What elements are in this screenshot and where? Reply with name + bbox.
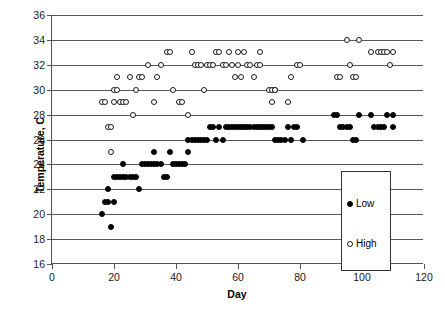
data-point-low	[384, 112, 390, 118]
data-point-high	[235, 49, 241, 55]
plot-area: 1618202224262830323436 020406080100120 L…	[51, 15, 423, 264]
data-point-low	[390, 112, 396, 118]
y-tick-label: 34	[33, 34, 45, 46]
y-tick	[47, 164, 52, 165]
data-point-high	[198, 62, 204, 68]
data-point-high	[232, 74, 238, 80]
data-point-high	[387, 62, 393, 68]
data-point-low	[269, 124, 275, 130]
legend-item-high: High	[347, 238, 377, 249]
data-point-high	[226, 49, 232, 55]
legend-marker-high-icon	[347, 241, 353, 247]
data-point-low	[334, 112, 340, 118]
data-point-high	[108, 124, 114, 130]
gridline	[52, 140, 423, 141]
data-point-high	[235, 62, 241, 68]
data-point-high	[269, 99, 275, 105]
data-point-low	[182, 161, 188, 167]
y-tick-label: 20	[33, 208, 45, 220]
legend-label-low: Low	[356, 198, 374, 209]
data-point-high	[344, 37, 350, 43]
x-tick-label: 60	[232, 271, 244, 283]
data-point-low	[216, 124, 222, 130]
data-point-high	[229, 62, 235, 68]
x-axis-title: Day	[51, 288, 423, 300]
y-tick-label: 18	[33, 233, 45, 245]
y-tick-label: 36	[33, 9, 45, 21]
data-point-high	[353, 74, 359, 80]
data-point-low	[285, 124, 291, 130]
x-tick-label: 80	[294, 271, 306, 283]
data-point-high	[285, 99, 291, 105]
data-point-high	[133, 87, 139, 93]
data-point-high	[201, 87, 207, 93]
data-point-high	[216, 49, 222, 55]
data-point-high	[179, 99, 185, 105]
data-point-low	[151, 149, 157, 155]
data-point-high	[347, 62, 353, 68]
data-point-high	[167, 49, 173, 55]
x-tick-label: 0	[49, 271, 55, 283]
data-point-high	[247, 62, 253, 68]
y-tick	[47, 115, 52, 116]
data-point-high	[390, 49, 396, 55]
x-tick	[176, 264, 177, 269]
data-point-high	[272, 87, 278, 93]
x-tick	[238, 264, 239, 269]
y-tick	[47, 239, 52, 240]
data-point-low	[213, 137, 219, 143]
data-point-low	[105, 186, 111, 192]
data-point-low	[220, 137, 226, 143]
data-point-high	[297, 62, 303, 68]
data-point-low	[368, 112, 374, 118]
x-tick	[424, 264, 425, 269]
data-point-high	[368, 49, 374, 55]
data-point-low	[167, 149, 173, 155]
data-point-low	[108, 224, 114, 230]
data-point-high	[241, 49, 247, 55]
chart-legend: Low High	[341, 171, 391, 271]
data-point-high	[257, 62, 263, 68]
y-tick	[47, 214, 52, 215]
x-tick	[114, 264, 115, 269]
data-point-high	[158, 62, 164, 68]
data-point-low	[294, 124, 300, 130]
y-axis-title: Temperature, C	[34, 117, 46, 193]
data-point-high	[384, 49, 390, 55]
data-point-low	[164, 174, 170, 180]
y-tick	[47, 65, 52, 66]
data-point-low	[120, 161, 126, 167]
x-tick-label: 100	[353, 271, 371, 283]
data-point-low	[99, 211, 105, 217]
y-tick-label: 26	[33, 134, 45, 146]
x-tick-label: 20	[108, 271, 120, 283]
data-point-low	[210, 124, 216, 130]
data-point-high	[154, 74, 160, 80]
data-point-high	[114, 87, 120, 93]
data-point-low	[381, 124, 387, 130]
data-point-high	[170, 87, 176, 93]
data-point-high	[102, 99, 108, 105]
data-point-high	[251, 74, 257, 80]
data-point-high	[108, 149, 114, 155]
legend-item-low: Low	[347, 198, 374, 209]
y-tick-label: 24	[33, 158, 45, 170]
data-point-high	[139, 74, 145, 80]
data-point-low	[288, 137, 294, 143]
y-tick-label: 28	[33, 109, 45, 121]
data-point-high	[337, 74, 343, 80]
data-point-low	[353, 137, 359, 143]
data-point-high	[210, 62, 216, 68]
y-tick	[47, 15, 52, 16]
data-point-high	[151, 99, 157, 105]
data-point-high	[356, 37, 362, 43]
y-tick	[47, 40, 52, 41]
data-point-high	[127, 74, 133, 80]
data-point-low	[204, 137, 210, 143]
y-tick-label: 16	[33, 258, 45, 270]
data-point-high	[130, 112, 136, 118]
data-point-high	[257, 49, 263, 55]
scatter-chart: Temperature, C 1618202224262830323436 02…	[0, 0, 445, 310]
gridline	[52, 164, 423, 165]
data-point-low	[136, 186, 142, 192]
